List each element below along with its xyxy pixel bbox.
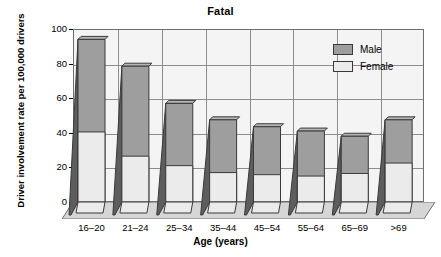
bar-base-21–24 bbox=[120, 202, 149, 213]
bar-base-45–54 bbox=[252, 202, 281, 213]
bar-side-45–54 bbox=[245, 127, 254, 215]
bar-female-45–54 bbox=[254, 175, 281, 202]
x-tick-label->69: >69 bbox=[373, 222, 424, 233]
bar-base->69 bbox=[383, 202, 412, 213]
bar-base-55–64 bbox=[295, 202, 324, 213]
bar-side-65–69 bbox=[332, 136, 341, 215]
bar-side-16–20 bbox=[69, 39, 78, 215]
bar-female-35–44 bbox=[210, 173, 237, 202]
bars-layer bbox=[0, 0, 441, 257]
bar-base-16–20 bbox=[76, 202, 105, 213]
bar-side-21–24 bbox=[113, 66, 122, 215]
bar-female-25–34 bbox=[166, 166, 193, 202]
bar-side-25–34 bbox=[157, 103, 166, 215]
bar-base-65–69 bbox=[339, 202, 368, 213]
bar-female-65–69 bbox=[341, 173, 368, 202]
bar-base-35–44 bbox=[208, 202, 237, 213]
bar-side-55–64 bbox=[288, 131, 297, 215]
bar-female-21–24 bbox=[122, 156, 149, 202]
bar-female->69 bbox=[385, 163, 412, 202]
bar-side->69 bbox=[376, 120, 385, 215]
chart-container: Fatal Driver involvement rate per 100,00… bbox=[0, 0, 441, 257]
bar-side-35–44 bbox=[201, 120, 210, 215]
bar-base-25–34 bbox=[164, 202, 193, 213]
bar-female-16–20 bbox=[78, 132, 105, 202]
bar-female-55–64 bbox=[297, 176, 324, 202]
